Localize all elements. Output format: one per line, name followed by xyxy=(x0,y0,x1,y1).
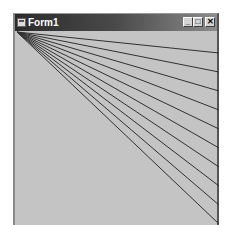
app-form-icon[interactable] xyxy=(17,18,26,27)
title-bar[interactable]: Form1 _ □ ✕ xyxy=(15,14,217,31)
drawn-line xyxy=(17,32,219,205)
minimize-button[interactable]: _ xyxy=(183,17,193,27)
maximize-button[interactable]: □ xyxy=(193,17,203,27)
window-title: Form1 xyxy=(28,17,59,28)
drawn-line xyxy=(17,32,219,186)
window-controls: _ □ ✕ xyxy=(183,17,215,27)
drawn-line xyxy=(17,32,219,129)
client-area xyxy=(15,31,217,225)
drawn-line xyxy=(17,32,219,224)
drawn-line xyxy=(17,32,219,91)
drawn-line xyxy=(17,32,219,110)
line-fan-drawing xyxy=(15,31,219,225)
close-button[interactable]: ✕ xyxy=(205,17,215,27)
form-window: Form1 _ □ ✕ xyxy=(13,13,219,225)
